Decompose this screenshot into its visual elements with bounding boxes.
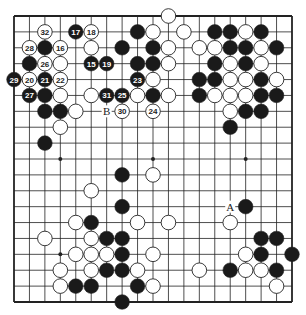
white-stone [84,231,99,246]
white-stone [99,247,114,262]
white-stone [192,263,207,278]
white-stone [84,40,99,55]
black-stone [254,231,269,246]
black-stone-icon [115,231,130,246]
black-stone-icon [115,247,130,262]
black-stone-icon [84,215,99,230]
black-stone-icon [115,295,130,310]
white-stone-icon [161,40,176,55]
black-stone-icon [254,231,269,246]
black-stone [130,279,145,294]
white-stone [161,215,176,230]
white-stone-icon [84,40,99,55]
white-stone [269,72,284,87]
white-stone [84,247,99,262]
black-stone-icon [192,88,207,103]
white-stone-icon [84,88,99,103]
white-stone [254,56,269,71]
black-stone-icon [269,263,284,278]
black-stone-icon [238,40,253,55]
white-stone [238,72,253,87]
white-stone [238,247,253,262]
black-stone-icon [115,40,130,55]
black-stone [115,231,130,246]
white-stone-icon [161,215,176,230]
white-stone [161,88,176,103]
black-stone-icon [192,72,207,87]
white-stone-icon [254,56,269,71]
star-point-icon [244,157,248,161]
black-stone [223,25,238,40]
white-stone-icon [177,25,192,40]
black-stone [38,40,53,55]
black-stone [238,56,253,71]
white-stone-icon [53,279,68,294]
black-stone: 31 [99,88,114,103]
white-stone-icon [130,88,145,103]
white-stone-icon [146,168,161,183]
white-stone [254,263,269,278]
white-stone-icon [238,247,253,262]
black-stone-icon [99,231,114,246]
white-stone-icon [238,88,253,103]
white-stone [53,263,68,278]
move-number: 23 [133,76,142,85]
black-stone-icon [68,279,83,294]
white-stone: 32 [38,25,53,40]
move-number: 21 [40,76,49,85]
white-stone [84,88,99,103]
white-stone [53,88,68,103]
go-board: 321718281626151929202122232731253024 BA [0,0,306,315]
black-stone-icon [207,25,222,40]
black-stone-icon [146,40,161,55]
black-stone-icon [53,104,68,119]
star-point-icon [151,157,155,161]
move-number: 27 [25,91,34,100]
move-number: 25 [118,91,127,100]
white-stone [269,279,284,294]
black-stone [146,40,161,55]
white-stone [161,40,176,55]
white-stone-icon [269,72,284,87]
white-stone-icon [161,9,176,24]
white-stone-icon [38,231,53,246]
black-stone [38,104,53,119]
marker-label: A [226,201,234,213]
black-stone-icon [99,263,114,278]
move-number: 20 [25,76,34,85]
black-stone [254,25,269,40]
white-stone [130,263,145,278]
black-stone-icon [207,56,222,71]
black-stone [115,168,130,183]
white-stone-icon [238,72,253,87]
white-stone-icon [238,25,253,40]
black-stone: 15 [84,56,99,71]
black-stone [207,72,222,87]
move-number: 15 [87,60,96,69]
black-stone [285,247,300,262]
black-stone-icon [269,40,284,55]
black-stone [99,231,114,246]
white-stone [223,72,238,87]
black-stone [115,199,130,214]
white-stone-icon [130,215,145,230]
move-number: 32 [40,28,49,37]
black-stone-icon [146,88,161,103]
black-stone-icon [238,104,253,119]
black-stone-icon [130,56,145,71]
white-stone-icon [161,56,176,71]
white-stone [146,168,161,183]
move-number: 16 [56,44,65,53]
white-stone-icon [146,279,161,294]
white-stone [146,25,161,40]
white-stone [146,247,161,262]
move-number: 18 [87,28,96,37]
white-stone [254,40,269,55]
black-stone-icon [238,56,253,71]
white-stone-icon [146,25,161,40]
white-stone [223,56,238,71]
white-stone-icon [84,231,99,246]
white-stone-icon [84,263,99,278]
black-stone: 29 [7,72,22,87]
black-stone-icon [269,231,284,246]
